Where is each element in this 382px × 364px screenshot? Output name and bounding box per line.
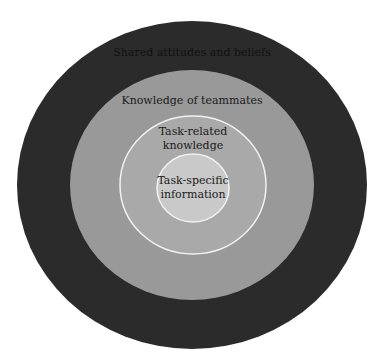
label-second: Knowledge of teammates — [121, 94, 262, 107]
label-center-line2: information — [160, 188, 225, 201]
label-third-line2: knowledge — [163, 139, 223, 152]
label-outer: Shared attitudes and beliefs — [113, 46, 271, 59]
label-center-line1: Task-specific — [157, 174, 228, 187]
concentric-diagram: Shared attitudes and beliefs Knowledge o… — [0, 0, 382, 364]
label-third-line1: Task-related — [159, 125, 228, 138]
